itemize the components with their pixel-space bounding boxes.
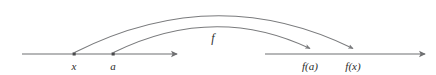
function-mapping-figure: x a f(a) f(x) f <box>0 0 436 75</box>
point-marker-a <box>112 52 115 55</box>
point-label-fx: f(x) <box>345 61 360 72</box>
point-label-fa: f(a) <box>302 61 318 72</box>
point-label-x: x <box>72 61 77 72</box>
point-marker-x <box>73 52 76 55</box>
point-label-a: a <box>110 61 116 72</box>
figure-canvas <box>0 0 436 75</box>
function-label-f: f <box>211 32 214 44</box>
